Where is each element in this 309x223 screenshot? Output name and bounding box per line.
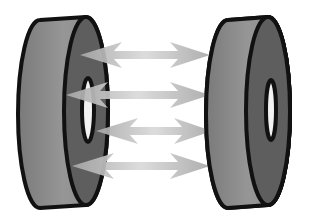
arrow-3 xyxy=(96,118,212,144)
magnet-diagram xyxy=(0,0,309,223)
right-disc-hole-overlay xyxy=(266,80,276,140)
left-disc xyxy=(18,17,108,208)
